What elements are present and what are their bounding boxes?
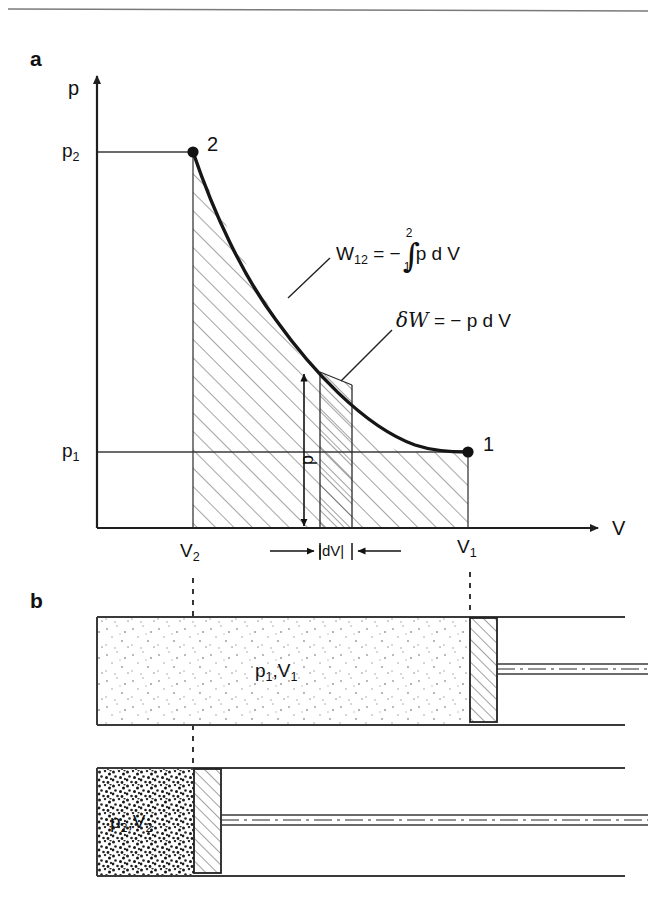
tick-label-v2-base: V [180,540,193,561]
work-integral-eq: = − [373,243,400,264]
tick-label-v2: V2 [180,541,200,563]
tick-label-p1: p1 [62,441,80,463]
panel-label-b: b [30,590,43,611]
elementary-work-integrand: p d V [467,310,511,331]
v-axis-label: V [612,518,625,538]
gas-state-1-volume-sub: 1 [291,670,298,684]
tick-label-v2-sub: 2 [193,550,200,564]
elementary-work-lhs: δW [396,308,429,332]
tick-label-v1-base: V [457,536,470,557]
pressure-height-label: p [298,455,316,465]
state-point-1 [462,446,473,457]
work-leader-line [288,258,330,298]
work-integral-integrand: p d V [416,243,460,264]
elementary-work-eq: = − [434,310,461,331]
gas-state-2-label: p2,V2 [110,812,153,834]
tick-label-p2: p2 [62,141,80,163]
state-point-2-label: 2 [207,134,218,154]
panel-label-a: a [30,48,42,69]
state-point-1-label: 1 [483,434,494,454]
tick-label-v1-sub: 1 [470,546,477,560]
elementary-work-leader-line [341,330,392,381]
gas-state-2-pressure: p [110,811,121,832]
gas-state-1-pressure-sub: 1 [266,670,273,684]
gas-state-2-volume-sub: 2 [146,821,153,835]
tick-label-p2-base: p [62,140,73,161]
dv-width-label: |dV| [318,543,344,558]
cylinder-state-2 [97,768,648,876]
integral-lower-limit: 1 [404,261,411,273]
cylinder-state-1 [97,617,648,725]
figure-root: a b p V p2 p1 V2 V1 2 1 W12 = − 2 ∫ 1 p … [0,0,658,917]
piston-state-1 [470,618,497,722]
gas-state-1-volume: V [278,660,291,681]
state-point-2 [187,146,198,157]
gas-state-2-volume: V [133,811,146,832]
elementary-work-formula: δW = − p d V [396,310,511,330]
gas-state-1-pressure: p [255,660,266,681]
tick-label-p1-sub: 1 [73,450,80,464]
gas-state-2-pressure-sub: 2 [121,821,128,835]
p-axis-label: p [68,78,79,98]
tick-label-p2-sub: 2 [73,150,80,164]
top-divider-rule [8,9,648,11]
tick-label-p1-base: p [62,440,73,461]
work-integral-formula: W12 = − 2 ∫ 1 p d V [336,244,460,266]
work-integral-lhs-sub: 12 [354,253,368,267]
integral-sign-icon: 2 ∫ 1 [401,244,416,263]
gas-state-1-label: p1,V1 [255,661,298,683]
figure-canvas [0,0,658,917]
piston-state-2 [194,769,221,873]
tick-label-v1: V1 [457,537,477,559]
panel-b-cylinders [97,617,648,876]
work-integral-lhs: W [336,243,354,264]
